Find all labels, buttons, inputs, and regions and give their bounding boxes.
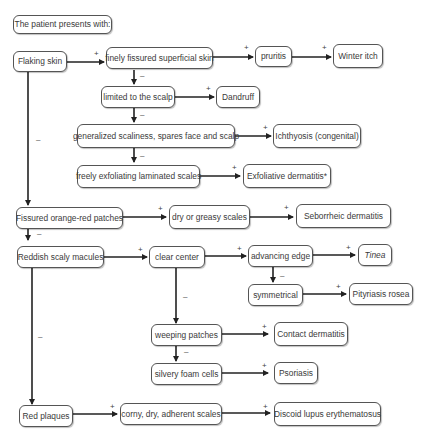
sign-plus: + [244, 44, 249, 52]
sign-plus: + [263, 403, 268, 411]
sign-plus: + [336, 283, 341, 291]
sign-plus: + [346, 244, 351, 252]
node-pruritis: pruritis [255, 46, 292, 67]
sign-minus: – [36, 136, 40, 144]
sign-minus: – [38, 333, 42, 341]
node-pityriasis-rosea: Pityriasis rosea [349, 283, 413, 305]
node-finely-fissured: finely fissured superficial skin [106, 47, 213, 69]
sign-plus: + [262, 323, 267, 331]
sign-plus: + [322, 44, 327, 52]
node-clear-center: clear center [149, 246, 205, 268]
node-tinea: Tinea [358, 244, 392, 266]
sign-plus: + [262, 362, 267, 370]
sign-plus: + [263, 124, 268, 132]
sign-plus: + [94, 50, 99, 58]
node-dandruff: Dandruff [216, 86, 260, 108]
sign-plus: + [284, 204, 289, 212]
node-seborrheic: Seborrheic dermatitis [296, 204, 391, 228]
node-contact-dermatitis: Contact dermatitis [274, 322, 348, 346]
sign-plus: + [206, 85, 211, 93]
sign-plus: + [110, 403, 115, 411]
node-red-plaques: Red plaques [19, 405, 73, 427]
node-freely-exfoliating: freely exfoliating laminated scales [77, 165, 200, 188]
node-weeping-patches: weeping patches [151, 324, 222, 346]
node-generalized-scaliness: generalized scaliness, spares face and s… [77, 124, 235, 148]
sign-minus: – [184, 348, 188, 356]
sign-minus: – [37, 230, 41, 238]
node-symmetrical: symmetrical [248, 284, 303, 306]
flowchart-canvas: The patient presents with: Flaking skin … [0, 0, 424, 434]
node-winter-itch: Winter itch [333, 44, 383, 68]
sign-minus: – [183, 293, 187, 301]
node-ichthyosis: Ichthyosis (congenital) [273, 124, 361, 148]
sign-minus: – [140, 111, 144, 119]
sign-minus: – [280, 272, 284, 280]
node-discoid-lupus: Discoid lupus erythematosus [274, 402, 381, 426]
node-reddish-macules: Reddish scaly macules [17, 246, 104, 268]
node-psoriasis: Psoriasis [274, 362, 318, 384]
node-silvery-foam: silvery foam cells [151, 363, 222, 385]
node-exfoliative-dermatitis: Exfoliative dermatitis* [243, 164, 331, 188]
sign-plus: + [158, 205, 163, 213]
node-flaking-skin: Flaking skin [13, 51, 67, 72]
sign-minus: – [140, 72, 144, 80]
node-dry-greasy: dry or greasy scales [169, 205, 250, 229]
node-fissured-orange-red: Fissured orange-red patches [16, 207, 123, 229]
sign-plus: + [138, 246, 143, 254]
title-box: The patient presents with: [13, 15, 112, 34]
node-corny-scales: corny, dry, adherent scales [120, 403, 222, 425]
sign-plus: + [232, 164, 237, 172]
sign-plus: + [237, 245, 242, 253]
node-limited-scalp: limited to the scalp [101, 86, 175, 108]
sign-minus: – [140, 152, 144, 160]
node-advancing-edge: advancing edge [248, 245, 313, 267]
